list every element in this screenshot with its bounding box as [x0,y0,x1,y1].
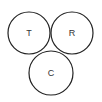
circle-c-label: C [48,68,55,78]
circle-t: T [8,12,50,54]
circle-r: R [51,12,93,54]
circles-diagram: T R C [0,0,102,102]
circle-c: C [29,51,73,95]
diagram-canvas: T R C [0,0,102,102]
circle-t-label: T [26,28,32,38]
circle-r-label: R [69,28,76,38]
